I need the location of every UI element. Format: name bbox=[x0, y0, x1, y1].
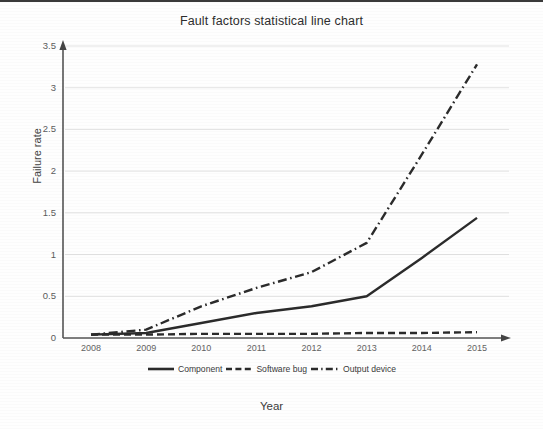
gridlines bbox=[65, 46, 509, 338]
legend-item-software-bug[interactable]: Software bug bbox=[225, 364, 307, 374]
dashed-line-swatch bbox=[225, 365, 253, 373]
legend-label-component: Component bbox=[178, 364, 222, 374]
legend-item-output-device[interactable]: Output device bbox=[310, 364, 396, 374]
y-tick-label: 0 bbox=[30, 332, 56, 343]
plot-area: 00.511.522.533.5 20082009201020112012201… bbox=[63, 46, 511, 338]
series-line-output-device bbox=[91, 64, 477, 334]
y-tick-label: 1.5 bbox=[30, 207, 56, 218]
x-tick-label: 2011 bbox=[231, 343, 281, 353]
y-axis-arrowhead bbox=[59, 40, 66, 50]
y-tick-label: 3.5 bbox=[30, 40, 56, 51]
page-top-border bbox=[0, 0, 543, 2]
y-tick-label: 2.5 bbox=[30, 123, 56, 134]
x-tick-label: 2015 bbox=[452, 343, 502, 353]
dash-dot-line-swatch bbox=[310, 365, 340, 373]
chart-legend: Component Software bug Output device bbox=[0, 364, 543, 374]
y-tick-label: 0.5 bbox=[30, 290, 56, 301]
x-axis-arrowhead bbox=[501, 334, 511, 341]
x-tick-label: 2012 bbox=[287, 343, 337, 353]
legend-label-output-device: Output device bbox=[343, 364, 396, 374]
x-tick-label: 2014 bbox=[397, 343, 447, 353]
y-tick-label: 1 bbox=[30, 249, 56, 260]
chart-canvas bbox=[63, 46, 511, 338]
x-axis-title: Year bbox=[0, 400, 543, 412]
chart-title: Fault factors statistical line chart bbox=[0, 14, 543, 28]
solid-line-swatch bbox=[147, 365, 175, 373]
y-tick-label: 3 bbox=[30, 82, 56, 93]
x-tick-label: 2008 bbox=[66, 343, 116, 353]
data-series-group bbox=[91, 64, 477, 334]
y-tick-label: 2 bbox=[30, 165, 56, 176]
chart-page: Fault factors statistical line chart Fai… bbox=[0, 0, 543, 429]
series-line-component bbox=[91, 218, 477, 335]
legend-label-software-bug: Software bug bbox=[256, 364, 307, 374]
x-tick-label: 2013 bbox=[342, 343, 392, 353]
x-tick-label: 2010 bbox=[176, 343, 226, 353]
legend-item-component[interactable]: Component bbox=[147, 364, 222, 374]
x-tick-label: 2009 bbox=[121, 343, 171, 353]
